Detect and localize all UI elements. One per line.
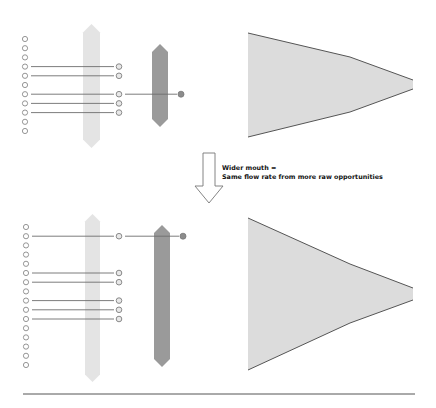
raw-opportunity-circle	[23, 316, 28, 321]
raw-opportunity-circle	[23, 270, 28, 275]
narrow-mouth-panel	[22, 24, 413, 148]
raw-opportunity-circle	[22, 55, 27, 60]
raw-opportunity-circle	[23, 289, 28, 294]
raw-opportunity-circle	[22, 73, 27, 78]
raw-opportunity-circle	[23, 280, 28, 285]
stage-1-circle	[116, 307, 122, 313]
stage-2-bar	[154, 225, 170, 367]
raw-opportunity-circle	[22, 92, 27, 97]
stage-2-bar	[152, 44, 168, 127]
raw-opportunity-circle	[23, 326, 28, 331]
caption-line-2: Same flow rate from more raw opportuniti…	[222, 173, 383, 182]
stage-1-circle	[116, 298, 122, 304]
raw-opportunity-circle	[23, 261, 28, 266]
raw-opportunity-circle	[23, 353, 28, 358]
stage-1-circle	[116, 233, 122, 239]
wide-mouth-panel	[23, 214, 413, 382]
stage-1-circle	[116, 64, 122, 70]
raw-opportunity-circle	[22, 64, 27, 69]
stage-1-circle	[116, 91, 122, 97]
raw-opportunity-circle	[22, 46, 27, 51]
down-arrow-shape	[195, 153, 223, 203]
final-outcome-dot	[178, 91, 184, 97]
stage-1-circle	[116, 270, 122, 276]
funnel-diagram	[0, 0, 436, 408]
raw-opportunity-circle	[22, 128, 27, 133]
caption: Wider mouth = Same flow rate from more r…	[222, 164, 383, 183]
raw-opportunity-circle	[23, 344, 28, 349]
raw-opportunity-circle	[22, 36, 27, 41]
raw-opportunity-circle	[23, 224, 28, 229]
stage-1-circle	[116, 316, 122, 322]
raw-opportunity-circle	[22, 101, 27, 106]
caption-line-1: Wider mouth =	[222, 164, 383, 173]
funnel-shape	[248, 33, 413, 137]
raw-opportunity-circle	[23, 335, 28, 340]
funnel-shape	[248, 218, 413, 370]
raw-opportunity-circle	[22, 82, 27, 87]
stage-1-bar	[83, 24, 100, 148]
raw-opportunity-circle	[23, 298, 28, 303]
down-arrow-icon	[195, 153, 223, 203]
final-outcome-dot	[180, 233, 186, 239]
raw-opportunity-circle	[23, 307, 28, 312]
stage-1-circle	[116, 110, 122, 116]
raw-opportunity-circle	[22, 110, 27, 115]
stage-1-circle	[116, 279, 122, 285]
raw-opportunity-circle	[23, 362, 28, 367]
stage-1-bar	[85, 214, 100, 382]
stage-1-circle	[116, 73, 122, 79]
raw-opportunity-circle	[23, 234, 28, 239]
raw-opportunity-circle	[23, 243, 28, 248]
stage-1-circle	[116, 101, 122, 107]
raw-opportunity-circle	[22, 119, 27, 124]
raw-opportunity-circle	[23, 252, 28, 257]
